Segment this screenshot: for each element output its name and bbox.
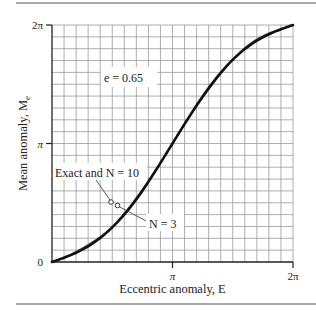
y-tick-label-pi: π	[37, 138, 43, 150]
e-label: e = 0.65	[104, 71, 143, 85]
y-tick-label-2pi: 2π	[32, 19, 44, 31]
y-tick-label-0: 0	[38, 256, 44, 268]
x-axis-label: Eccentric anomaly, E	[119, 282, 226, 296]
x-tick-label-pi: π	[170, 270, 176, 282]
n3-marker	[115, 203, 120, 208]
n3-leader-line	[118, 206, 148, 222]
exact-leader-line	[96, 180, 110, 200]
x-tick-label-2pi: 2π	[287, 270, 299, 282]
figure: 2π π 0 π 2π Eccentric anomaly, E Mean an…	[0, 0, 316, 311]
exact-label: Exact and N = 10	[55, 166, 139, 180]
exact-marker	[109, 200, 114, 205]
y-axis-label: Mean anomaly, Me	[16, 96, 32, 191]
n3-label: N = 3	[149, 217, 176, 231]
